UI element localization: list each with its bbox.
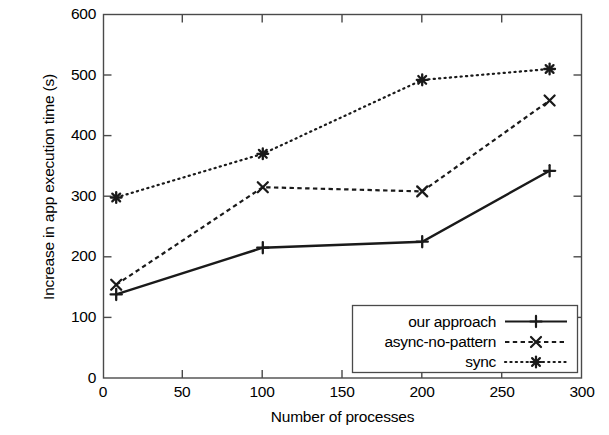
x-tick-label-250: 250 [477,383,527,401]
y-tick-label-400: 400 [52,126,96,144]
y-tick-label-600: 600 [52,5,96,23]
y-axis-ticks [104,75,582,317]
legend-label-our-approach: our approach [360,313,496,331]
y-tick-label-300: 300 [52,187,96,205]
series-sync [111,64,555,203]
series-async-no-pattern [111,96,554,290]
marker-plus [111,165,556,300]
x-tick-label-300: 300 [557,383,607,401]
y-axis-title: Increase in app execution time (s) [40,42,58,332]
x-tick-label-50: 50 [157,383,207,401]
marker-cross [111,96,554,290]
x-tick-label-150: 150 [317,383,367,401]
x-axis-title: Number of processes [103,408,582,426]
series-our-approach [111,165,556,300]
x-tick-label-100: 100 [237,383,287,401]
x-tick-label-200: 200 [397,383,447,401]
y-tick-label-100: 100 [52,308,96,326]
x-tick-label-0: 0 [78,383,128,401]
marker-asterisk [111,64,555,203]
y-tick-label-200: 200 [52,247,96,265]
legend-label-sync: sync [360,353,496,371]
legend-label-async-no-pattern: async-no-pattern [360,333,496,351]
chart-figure: 600 500 400 300 200 100 0 0 50 100 150 2… [0,0,609,435]
y-tick-label-500: 500 [52,66,96,84]
